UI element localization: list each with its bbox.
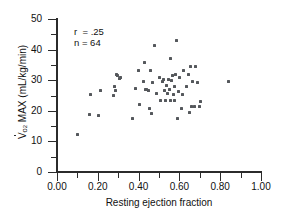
x-axis-title: Resting ejection fraction xyxy=(57,197,261,208)
data-point xyxy=(138,103,141,106)
data-point xyxy=(150,112,153,115)
data-point xyxy=(134,87,137,90)
stats-annotation: r = .25n = 64 xyxy=(74,26,104,48)
y-tick-major xyxy=(48,80,56,81)
data-point xyxy=(185,85,188,88)
data-point xyxy=(188,111,191,114)
data-point xyxy=(137,69,140,72)
x-tick-major xyxy=(98,173,99,181)
data-point xyxy=(131,117,134,120)
data-point xyxy=(159,99,162,102)
data-point xyxy=(182,69,185,72)
annotation-line: r = .25 xyxy=(74,26,104,37)
data-point xyxy=(175,39,178,42)
data-point xyxy=(155,92,158,95)
data-point xyxy=(193,105,196,108)
data-point xyxy=(113,85,116,88)
data-point xyxy=(173,99,176,102)
annotation-line: n = 64 xyxy=(74,37,104,48)
y-tick-minor xyxy=(51,126,56,127)
data-point xyxy=(76,133,79,136)
data-point xyxy=(168,88,171,91)
data-point xyxy=(99,89,102,92)
data-point xyxy=(162,78,165,81)
data-point xyxy=(169,57,172,60)
y-axis-title-rest: MAX (mL/kg/min) xyxy=(17,45,28,125)
data-point xyxy=(172,93,175,96)
x-tick-major xyxy=(179,173,180,181)
data-point xyxy=(112,94,115,97)
data-point xyxy=(178,76,181,79)
x-tick-label: 0.00 xyxy=(37,182,77,192)
x-tick-label: 1.00 xyxy=(241,182,281,192)
y-tick-major xyxy=(48,111,56,112)
data-point xyxy=(149,69,152,72)
y-axis-title: Vo2 MAX (mL/kg/min) xyxy=(17,7,29,177)
data-point xyxy=(89,93,92,96)
x-tick-label: 0.20 xyxy=(78,182,118,192)
y-tick-major xyxy=(48,172,56,173)
y-tick-minor xyxy=(51,65,56,66)
x-tick-major xyxy=(220,173,221,181)
x-tick-major xyxy=(261,173,262,181)
x-tick-minor xyxy=(159,173,160,178)
data-point xyxy=(187,73,190,76)
data-point xyxy=(194,65,197,68)
y-axis-title-v: V xyxy=(17,132,28,139)
x-tick-minor xyxy=(241,173,242,178)
data-point xyxy=(176,117,179,120)
data-point xyxy=(165,84,168,87)
data-point xyxy=(119,76,122,79)
data-point xyxy=(88,113,91,116)
data-point xyxy=(166,92,169,95)
data-point xyxy=(170,79,173,82)
data-point xyxy=(169,99,172,102)
x-tick-label: 0.40 xyxy=(119,182,159,192)
data-point xyxy=(198,105,201,108)
data-point xyxy=(181,93,184,96)
x-tick-minor xyxy=(77,173,78,178)
data-point xyxy=(148,107,151,110)
data-point xyxy=(174,73,177,76)
data-point xyxy=(196,81,199,84)
data-point xyxy=(143,61,146,64)
y-tick-minor xyxy=(51,157,56,158)
data-point xyxy=(227,80,230,83)
data-point xyxy=(189,65,192,68)
y-tick-major xyxy=(48,19,56,20)
data-point xyxy=(97,114,100,117)
data-point xyxy=(114,89,117,92)
x-tick-label: 0.80 xyxy=(200,182,240,192)
x-tick-minor xyxy=(200,173,201,178)
data-point xyxy=(199,100,202,103)
data-point xyxy=(177,90,180,93)
data-point xyxy=(164,99,167,102)
y-tick-minor xyxy=(51,34,56,35)
y-tick-minor xyxy=(51,96,56,97)
data-point xyxy=(147,89,150,92)
data-point xyxy=(191,80,194,83)
data-point xyxy=(180,107,183,110)
x-tick-label: 0.60 xyxy=(159,182,199,192)
data-point xyxy=(142,80,145,83)
data-point xyxy=(158,76,161,79)
x-tick-major xyxy=(139,173,140,181)
x-tick-major xyxy=(57,173,58,181)
data-point xyxy=(173,85,176,88)
y-tick-major xyxy=(48,50,56,51)
y-axis-line xyxy=(56,18,58,173)
x-tick-minor xyxy=(118,173,119,178)
y-tick-major xyxy=(48,141,56,142)
data-point xyxy=(151,81,154,84)
data-point xyxy=(153,44,156,47)
scatter-plot-figure: 01020304050 0.000.200.400.600.801.00 r =… xyxy=(0,0,283,219)
